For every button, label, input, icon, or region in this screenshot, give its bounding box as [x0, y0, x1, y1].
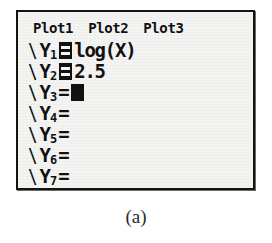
function-slash-icon: \: [28, 146, 37, 166]
function-variable-label: Y: [39, 125, 49, 144]
function-row-y1[interactable]: \ Y 1 log(X): [28, 40, 249, 61]
plot-item-plot3[interactable]: Plot3: [142, 21, 184, 36]
function-row-y4[interactable]: \ Y 4 =: [28, 103, 249, 124]
function-variable-label: Y: [39, 146, 49, 165]
function-index-label: 7: [50, 175, 57, 187]
function-variable-label: Y: [39, 167, 49, 186]
function-slash-icon: \: [28, 62, 37, 82]
calculator-screen: Plot1 Plot2 Plot3 \ Y 1 log(X) \ Y 2 2.5: [16, 10, 255, 190]
function-equals-icon[interactable]: =: [58, 167, 68, 186]
function-index-label: 5: [50, 133, 57, 145]
function-row-y7[interactable]: \ Y 7 =: [28, 166, 249, 187]
function-variable-label: Y: [39, 83, 49, 102]
plot-item-plot2[interactable]: Plot2: [87, 21, 129, 36]
function-variable-label: Y: [39, 62, 49, 81]
function-equals-selected-icon[interactable]: [59, 42, 72, 59]
plot-selector-row: Plot1 Plot2 Plot3: [32, 21, 184, 36]
plot-item-plot1[interactable]: Plot1: [32, 21, 74, 36]
function-equals-icon[interactable]: =: [58, 83, 68, 102]
function-row-y3[interactable]: \ Y 3 =: [28, 82, 249, 103]
function-variable-label: Y: [39, 41, 49, 60]
function-row-y6[interactable]: \ Y 6 =: [28, 145, 249, 166]
function-equals-icon[interactable]: =: [58, 125, 68, 144]
calculator-screen-inner: Plot1 Plot2 Plot3 \ Y 1 log(X) \ Y 2 2.5: [18, 12, 253, 188]
function-slash-icon: \: [28, 83, 37, 103]
function-list: \ Y 1 log(X) \ Y 2 2.5 \ Y 3 =: [28, 40, 249, 187]
function-variable-label: Y: [39, 104, 49, 123]
function-index-label: 2: [50, 70, 57, 82]
function-row-y5[interactable]: \ Y 5 =: [28, 124, 249, 145]
figure-caption: (a): [0, 206, 272, 228]
function-expression-y1[interactable]: log(X): [74, 41, 135, 60]
function-index-label: 1: [50, 49, 57, 61]
function-slash-icon: \: [28, 41, 37, 61]
function-expression-y2[interactable]: 2.5: [74, 62, 105, 81]
function-slash-icon: \: [28, 125, 37, 145]
function-index-label: 6: [50, 154, 57, 166]
function-row-y2[interactable]: \ Y 2 2.5: [28, 61, 249, 82]
function-slash-icon: \: [28, 167, 37, 187]
text-cursor: [71, 84, 84, 101]
function-slash-icon: \: [28, 104, 37, 124]
function-equals-selected-icon[interactable]: [59, 63, 72, 80]
function-index-label: 4: [50, 112, 57, 124]
function-equals-icon[interactable]: =: [58, 146, 68, 165]
function-index-label: 3: [50, 91, 57, 103]
function-equals-icon[interactable]: =: [58, 104, 68, 123]
